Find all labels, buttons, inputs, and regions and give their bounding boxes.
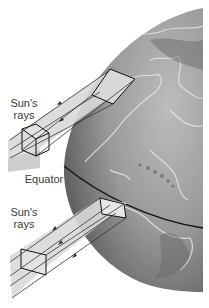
sun-rays-label-bottom-line2: rays: [4, 218, 44, 230]
sun-rays-label-bottom: Sun's rays: [4, 206, 44, 230]
sun-rays-label-top: Sun's rays: [4, 97, 44, 121]
sun-rays-label-top-line2: rays: [4, 109, 44, 121]
earth-sunlight-diagram: [0, 0, 209, 308]
globe: [64, 8, 203, 292]
sun-rays-label-top-line1: Sun's: [4, 97, 44, 109]
sun-rays-label-bottom-line1: Sun's: [4, 206, 44, 218]
equator-label: Equator: [24, 173, 64, 185]
